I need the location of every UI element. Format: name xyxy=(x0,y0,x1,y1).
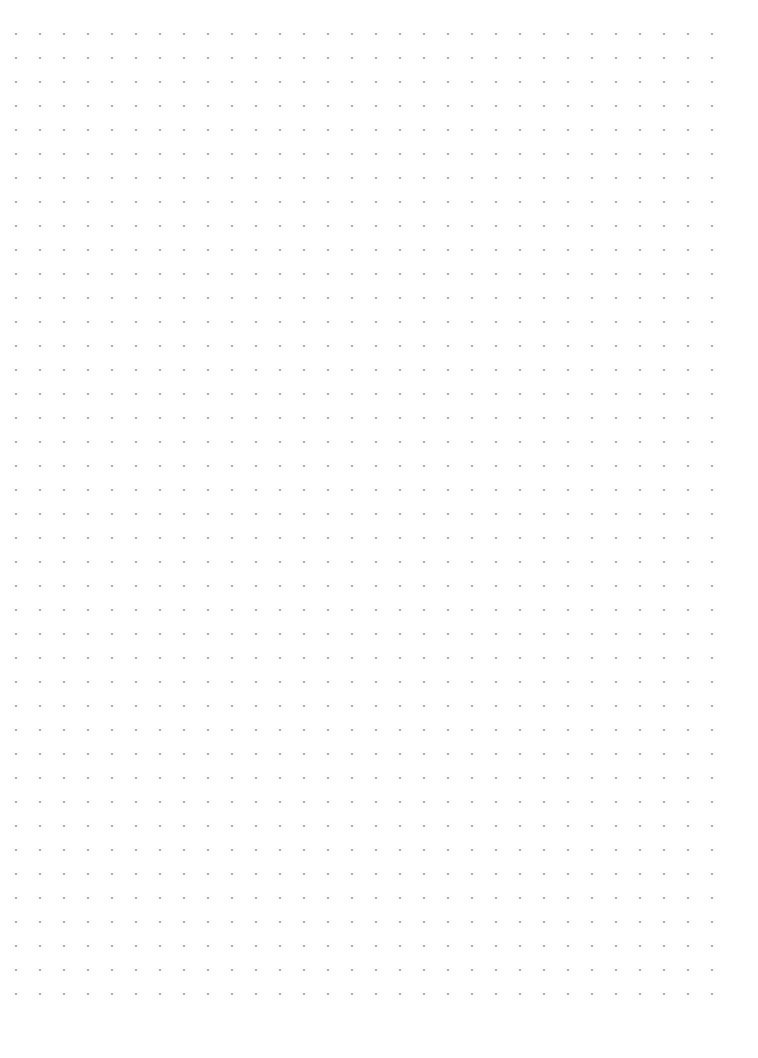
dot-grid-canvas xyxy=(0,0,758,1058)
dot-grid-page: Dot Grid Page Dot grid paper xyxy=(0,0,758,1058)
